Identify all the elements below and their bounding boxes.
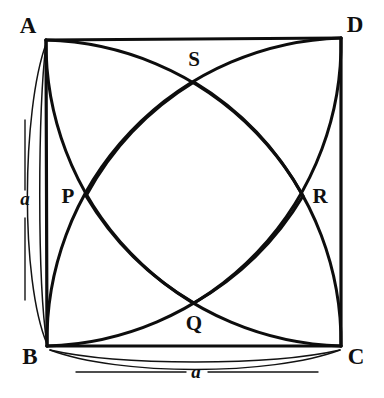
point-label-q: Q xyxy=(186,311,202,335)
point-label-s: S xyxy=(188,47,200,71)
dimension-left-bow xyxy=(27,44,47,344)
square-edge-ba xyxy=(46,40,47,346)
dimension-label-left: a xyxy=(20,188,30,209)
point-labels-group: S P R Q xyxy=(62,47,329,335)
square-edge-ad xyxy=(46,38,341,40)
dimension-label-bottom: a xyxy=(191,361,201,382)
shaded-region-fill xyxy=(86,82,303,303)
geometry-figure-svg: A D C B S P R Q a a xyxy=(0,0,384,398)
geometry-figure-container: A D C B S P R Q a a xyxy=(0,0,384,398)
shaded-region-psrq xyxy=(86,82,303,303)
vertex-label-c: C xyxy=(348,344,365,369)
point-label-p: P xyxy=(62,184,75,208)
vertex-label-d: D xyxy=(347,12,364,37)
shaded-region-outline xyxy=(86,82,303,303)
arc-centered-at-d xyxy=(46,40,341,346)
vertex-label-b: B xyxy=(22,344,37,369)
point-label-r: R xyxy=(312,184,328,208)
arc-centered-at-b xyxy=(46,40,341,346)
vertex-label-a: A xyxy=(20,13,37,38)
corner-arcs-group xyxy=(46,38,341,346)
